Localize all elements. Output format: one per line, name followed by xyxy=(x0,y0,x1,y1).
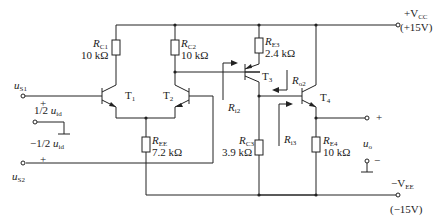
vee-value: (−15V) xyxy=(390,204,422,215)
t2-label: T2 xyxy=(163,90,173,103)
re3-resistor xyxy=(255,38,263,53)
plus-sign-2: + xyxy=(40,154,46,165)
circuit-schematic xyxy=(0,0,433,221)
vee-label: −VEE xyxy=(391,178,414,191)
re3-value: 2.4 kΩ xyxy=(265,48,295,59)
ri3-label: Ri3 xyxy=(284,134,296,147)
output-plus: + xyxy=(376,112,382,123)
us1-label: uS1 xyxy=(14,80,27,93)
rc2-resistor xyxy=(171,40,179,55)
t4-label: T4 xyxy=(320,92,330,105)
ree-resistor xyxy=(142,137,150,152)
rc1-value: 10 kΩ xyxy=(81,50,108,61)
rc3-value: 3.9 kΩ xyxy=(222,147,252,158)
ro2-label: Ro2 xyxy=(292,75,306,88)
half-uid-pos: 1/2 uid xyxy=(34,105,62,118)
rc1-resistor xyxy=(112,40,120,55)
us2-label: uS2 xyxy=(12,171,25,184)
ri2-label: Ri2 xyxy=(228,102,240,115)
t3-label: T3 xyxy=(262,71,272,84)
re4-value: 10 kΩ xyxy=(323,147,350,158)
vcc-label: +VCC xyxy=(404,8,428,21)
circuit-diagram: +VCC (+15V) −VEE (−15V) RC1 10 kΩ RC2 10… xyxy=(0,0,433,221)
output-minus: − xyxy=(374,155,380,166)
re4-resistor xyxy=(312,137,320,152)
half-uid-neg: −1/2 uid xyxy=(30,138,64,151)
uo-label: uo xyxy=(363,138,372,151)
ree-value: 7.2 kΩ xyxy=(152,147,182,158)
rc3-resistor xyxy=(255,140,263,155)
vcc-value: (+15V) xyxy=(400,22,432,33)
rc2-value: 10 kΩ xyxy=(181,50,208,61)
t1-label: T1 xyxy=(125,90,135,103)
